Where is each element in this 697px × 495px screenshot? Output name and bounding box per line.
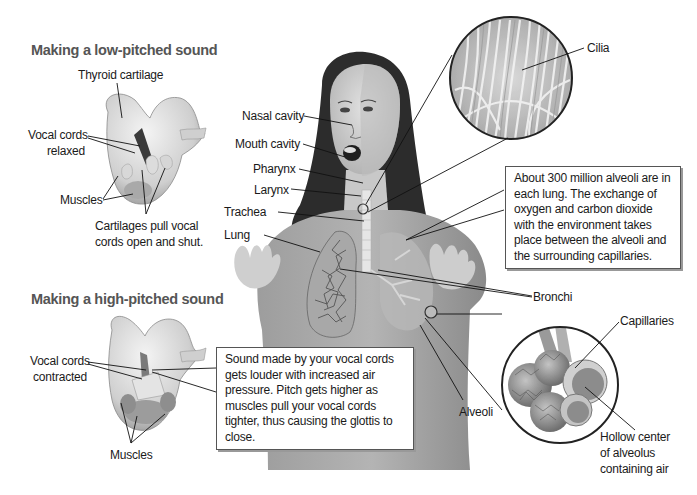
larynx-label: Larynx xyxy=(254,183,289,197)
capillaries-label: Capillaries xyxy=(620,314,674,328)
muscles-low-label: Muscles xyxy=(60,193,103,207)
hollow-center-label-line1: Hollow center xyxy=(600,430,670,444)
cartilages-label-line1: Cartilages pull vocal xyxy=(95,219,198,233)
alveoli-label: Alveoli xyxy=(459,405,493,419)
mouth-cavity-label: Mouth cavity xyxy=(235,137,300,151)
cartilages-label-line2: cords open and shut. xyxy=(95,235,203,249)
vocal-cords-relaxed-label-line2: relaxed xyxy=(28,144,85,158)
hollow-center-label-line2: of alveolus xyxy=(600,446,655,460)
nasal-cavity-label: Nasal cavity xyxy=(242,109,304,123)
vocal-cords-relaxed-label-line1: Vocal cords xyxy=(28,128,85,142)
alveoli-exchange-callout: About 300 million alveoli are in each lu… xyxy=(505,166,681,269)
muscles-high-label: Muscles xyxy=(110,448,153,462)
cilia-label: Cilia xyxy=(587,41,609,55)
pitch-explanation-callout: Sound made by your vocal cords gets loud… xyxy=(216,347,414,450)
hollow-center-label-line3: containing air xyxy=(600,462,669,476)
trachea-label: Trachea xyxy=(224,205,266,219)
thyroid-cartilage-label: Thyroid cartilage xyxy=(78,68,163,82)
low-pitch-heading: Making a low-pitched sound xyxy=(31,42,217,58)
pharynx-label: Pharynx xyxy=(253,162,296,176)
high-pitch-heading: Making a high-pitched sound xyxy=(31,291,223,307)
vocal-cords-contracted-label-line2: contracted xyxy=(33,370,87,384)
bronchi-label: Bronchi xyxy=(533,290,572,304)
lung-label: Lung xyxy=(224,228,250,242)
alveolus-inset-illustration xyxy=(502,325,618,443)
vocal-cords-contracted-label-line1: Vocal cords xyxy=(30,354,90,368)
cilia-inset-illustration xyxy=(450,17,572,140)
